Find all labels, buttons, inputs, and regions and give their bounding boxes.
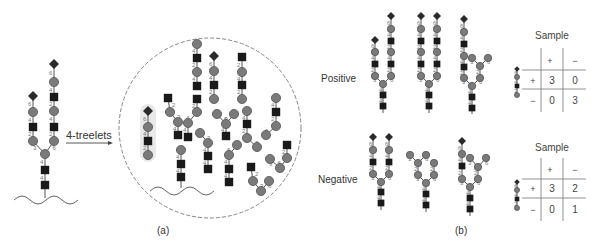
- circle-residue-icon: [460, 52, 467, 59]
- circle-residue-icon: [212, 109, 221, 118]
- square-residue-icon: [380, 92, 387, 99]
- linkage-label: 2: [237, 89, 241, 95]
- square-residue-icon: [184, 133, 192, 141]
- square-residue-icon: [386, 159, 393, 166]
- square-residue-icon: [193, 82, 201, 90]
- circle-residue-icon: [433, 25, 440, 32]
- cell: 3: [572, 95, 578, 106]
- diamond-residue-icon: [49, 59, 59, 69]
- circle-residue-icon: [433, 72, 440, 79]
- linkage-label: 4: [49, 116, 53, 122]
- col-header: −: [572, 56, 577, 66]
- full-glycan: 443246624246: [28, 59, 59, 198]
- circle-residue-icon: [387, 72, 394, 79]
- circle-residue-icon: [430, 159, 437, 166]
- circle-residue-icon: [252, 142, 261, 151]
- square-residue-icon: [247, 163, 255, 171]
- linkage-label: 6: [387, 20, 391, 26]
- circle-residue-icon: [476, 74, 483, 81]
- linkage-label: 2: [271, 116, 275, 122]
- square-residue-icon: [164, 94, 172, 102]
- circle-residue-icon: [425, 80, 432, 87]
- row-header: +: [530, 76, 535, 86]
- circle-residue-icon: [385, 170, 392, 177]
- linkage-label: 6: [460, 23, 464, 29]
- square-residue-icon: [423, 202, 430, 209]
- circle-residue-icon: [466, 183, 473, 190]
- circle-residue-icon: [371, 72, 378, 79]
- cell: 0: [549, 204, 555, 215]
- square-residue-icon: [41, 181, 49, 189]
- circle-residue-icon: [484, 54, 491, 61]
- linkage-label: 4: [192, 48, 196, 54]
- linkage-label: 2: [237, 62, 241, 68]
- square-residue-icon: [174, 131, 182, 139]
- circle-residue-icon: [430, 171, 437, 178]
- circle-residue-icon: [387, 25, 394, 32]
- circle-residue-icon: [261, 130, 270, 139]
- circle-residue-icon: [256, 186, 265, 195]
- table-title: Sample: [535, 30, 569, 41]
- square-residue-icon: [225, 178, 233, 186]
- square-residue-icon: [469, 94, 476, 101]
- circle-residue-icon: [482, 154, 489, 161]
- circle-residue-icon: [165, 107, 174, 116]
- neg-1: 4432466246: [369, 133, 393, 210]
- linkage-label: 6: [433, 20, 437, 26]
- linkage-label: 4: [466, 201, 470, 207]
- circle-residue-icon: [28, 136, 37, 145]
- linkage-label: 2: [209, 89, 213, 95]
- linkage-label: 4: [176, 168, 180, 174]
- circle-residue-icon: [406, 151, 413, 158]
- pos-3: 443242466236: [460, 15, 492, 114]
- linkage-label: 4: [224, 159, 228, 165]
- treelet-9: 426: [261, 93, 280, 139]
- circle-residue-icon: [385, 146, 392, 153]
- circle-residue-icon: [242, 133, 251, 142]
- circle-residue-icon: [414, 171, 421, 178]
- treelet-7: 364: [212, 109, 238, 140]
- circle-residue-icon: [379, 80, 386, 87]
- row-header: −: [530, 205, 535, 215]
- circle-residue-icon: [264, 176, 273, 185]
- square-residue-icon: [222, 132, 230, 140]
- pos-1: 443246624246: [371, 12, 395, 113]
- arrow-head-icon: [108, 141, 113, 145]
- circle-residue-icon: [209, 66, 218, 75]
- circle-residue-icon: [417, 25, 424, 32]
- circle-residue-icon: [414, 159, 421, 166]
- square-residue-icon: [193, 95, 201, 103]
- linkage-label: 4: [203, 160, 207, 166]
- linkage-label: 4: [40, 175, 44, 181]
- treelet-4: 242: [237, 53, 247, 104]
- treelet-11: 644: [224, 140, 242, 186]
- cell: 3: [549, 75, 555, 86]
- linkage-label: 2: [28, 131, 32, 137]
- linkage-label: 2: [458, 170, 462, 176]
- square-residue-icon: [210, 81, 218, 89]
- circle-residue-icon: [49, 136, 58, 145]
- col-header: −: [572, 165, 577, 175]
- square-residue-icon: [204, 152, 212, 160]
- circle-residue-icon: [458, 175, 465, 182]
- square-residue-icon: [467, 195, 474, 202]
- square-residue-icon: [426, 92, 433, 99]
- panel-a-label: (a): [157, 225, 169, 236]
- square-residue-icon: [469, 105, 476, 112]
- square-residue-icon: [204, 165, 212, 173]
- circle-residue-icon: [514, 187, 519, 192]
- linkage-label: 2: [49, 131, 53, 137]
- square-residue-icon: [418, 38, 425, 45]
- linkage-label: 4: [224, 173, 228, 179]
- circle-residue-icon: [282, 153, 291, 162]
- linkage-label: 2: [192, 62, 196, 68]
- linkage-label: 4: [28, 117, 32, 123]
- row-header: −: [530, 96, 535, 106]
- protein-backbone-wave: [150, 187, 214, 195]
- square-residue-icon: [41, 166, 49, 174]
- circle-residue-icon: [271, 93, 280, 102]
- row-header: +: [530, 184, 535, 194]
- treelet-8: 423: [242, 106, 262, 151]
- linkage-label: 4: [425, 98, 429, 104]
- circle-residue-icon: [417, 72, 424, 79]
